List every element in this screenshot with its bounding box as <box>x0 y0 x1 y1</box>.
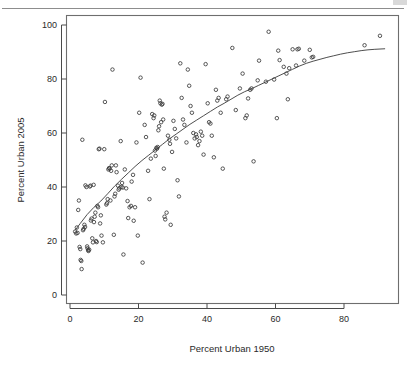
y-tick-label: 100 <box>42 20 57 30</box>
data-point <box>162 167 166 171</box>
data-point <box>275 116 279 120</box>
data-point <box>282 65 286 69</box>
data-point <box>170 150 174 154</box>
data-point <box>174 137 178 141</box>
data-point <box>122 253 126 257</box>
data-point <box>80 267 84 271</box>
data-point <box>115 170 119 174</box>
data-point <box>131 173 135 177</box>
chart-page: 020406080100 020406080 Percent Urban 195… <box>0 0 413 367</box>
data-point <box>186 68 190 72</box>
x-axis <box>70 304 344 309</box>
data-point <box>278 58 282 62</box>
data-point <box>303 59 307 63</box>
y-tick-label: 0 <box>52 290 57 300</box>
data-point <box>190 111 194 115</box>
data-point <box>276 49 280 53</box>
data-point <box>199 130 203 134</box>
data-point <box>133 206 137 210</box>
data-point <box>130 180 134 184</box>
data-point <box>103 147 107 151</box>
data-point <box>206 102 210 106</box>
data-point <box>135 141 139 145</box>
data-point <box>173 127 177 131</box>
data-point <box>95 240 99 244</box>
y-tick-label: 80 <box>47 74 57 84</box>
data-point <box>119 139 123 143</box>
data-point <box>91 237 95 241</box>
data-points <box>73 30 381 271</box>
data-point <box>161 118 165 122</box>
data-point <box>112 233 116 237</box>
data-point <box>166 134 170 138</box>
data-point <box>101 241 105 245</box>
data-point <box>202 153 206 157</box>
data-point <box>181 118 185 122</box>
data-point <box>176 179 180 183</box>
data-point <box>257 59 261 63</box>
data-point <box>210 134 214 138</box>
data-point <box>214 88 218 92</box>
x-tick-label: 40 <box>202 314 212 324</box>
x-tick-label: 60 <box>270 314 280 324</box>
data-point <box>238 87 242 91</box>
x-tick-label: 20 <box>133 314 143 324</box>
data-point <box>177 195 181 199</box>
data-point <box>169 223 173 227</box>
data-point <box>126 216 130 220</box>
x-tick-label: 0 <box>67 314 72 324</box>
data-point <box>179 62 183 65</box>
data-point <box>308 48 312 52</box>
data-point <box>246 97 250 101</box>
data-point <box>221 167 225 171</box>
y-axis-title: Percent Urban 2005 <box>15 117 26 202</box>
data-point <box>146 169 150 173</box>
data-point <box>165 211 169 215</box>
data-point <box>168 142 172 146</box>
x-axis-title: Percent Urban 1950 <box>189 343 274 354</box>
data-point <box>123 168 127 172</box>
data-point <box>144 135 148 139</box>
data-point <box>148 197 152 201</box>
data-point <box>363 44 367 48</box>
data-point <box>198 139 202 143</box>
data-point <box>185 141 189 145</box>
x-tick-labels: 020406080 <box>67 314 349 324</box>
data-point <box>132 219 136 223</box>
y-tick-labels: 020406080100 <box>42 20 57 300</box>
data-point <box>93 215 97 219</box>
data-point <box>180 96 184 100</box>
data-point <box>157 129 161 133</box>
data-point <box>172 119 176 123</box>
data-point <box>219 111 223 115</box>
data-point <box>110 164 114 168</box>
data-point <box>80 259 84 263</box>
data-point <box>137 111 141 115</box>
data-point <box>234 108 238 112</box>
data-point <box>114 164 118 168</box>
data-point <box>183 123 187 127</box>
data-point <box>204 62 208 66</box>
data-point <box>136 234 140 238</box>
data-point <box>100 234 104 238</box>
data-point <box>81 138 85 142</box>
data-point <box>141 261 145 265</box>
data-point <box>256 79 260 83</box>
data-point <box>189 104 193 108</box>
data-point <box>231 46 235 50</box>
scatter-plot: 020406080100 020406080 Percent Urban 195… <box>0 0 413 367</box>
plot-frame <box>67 16 399 304</box>
y-axis <box>62 25 67 295</box>
data-point <box>149 157 153 161</box>
y-tick-label: 20 <box>47 236 57 246</box>
data-point <box>98 222 102 226</box>
data-point <box>111 68 115 72</box>
data-point <box>139 76 143 80</box>
data-point <box>103 100 107 104</box>
data-point <box>126 199 130 203</box>
data-point <box>241 72 245 76</box>
data-point <box>77 199 81 203</box>
data-point <box>157 125 161 129</box>
data-point <box>267 30 271 34</box>
data-point <box>286 98 290 102</box>
